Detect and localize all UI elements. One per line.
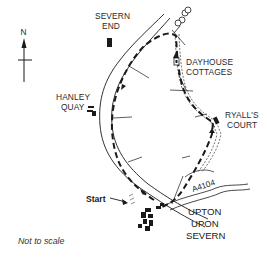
- building-hanley-quay: [87, 106, 96, 116]
- river-severn: [100, 14, 208, 227]
- north-arrow-icon: [18, 38, 32, 82]
- place-label-upton-line2: UPON: [191, 218, 219, 229]
- place-label-dayhouse-line1: DAYHOUSE: [186, 57, 233, 67]
- place-label-ryalls-court-line1: RYALL'S: [225, 110, 259, 120]
- place-label-severn-end-line2: END: [102, 21, 120, 31]
- start-label: Start: [86, 194, 106, 204]
- road-label: A4104: [191, 178, 217, 194]
- building-dayhouse: [174, 58, 179, 65]
- walk-route-map: N: [0, 0, 267, 261]
- building-severn-end: [107, 38, 112, 47]
- map-canvas: N: [0, 0, 267, 261]
- tree-icon: [174, 7, 191, 33]
- place-label-severn-end-line1: SEVERN: [95, 11, 130, 21]
- scale-note: Not to scale: [18, 236, 65, 246]
- building-ryalls-court: [213, 116, 220, 124]
- lane: [175, 34, 221, 172]
- place-label-ryalls-court-line2: COURT: [227, 120, 257, 130]
- place-label-dayhouse-line2: COTTAGES: [186, 67, 233, 77]
- start-arrow-icon: [110, 194, 135, 205]
- place-label-upton-line1: UPTON: [188, 206, 221, 217]
- place-label-upton-line3: SEVERN: [186, 230, 226, 241]
- place-label-hanley-quay-line1: HANLEY: [56, 92, 90, 102]
- place-label-hanley-quay-line2: QUAY: [61, 102, 85, 112]
- town-upton-upon-severn: [138, 203, 164, 231]
- compass-label: N: [21, 27, 27, 37]
